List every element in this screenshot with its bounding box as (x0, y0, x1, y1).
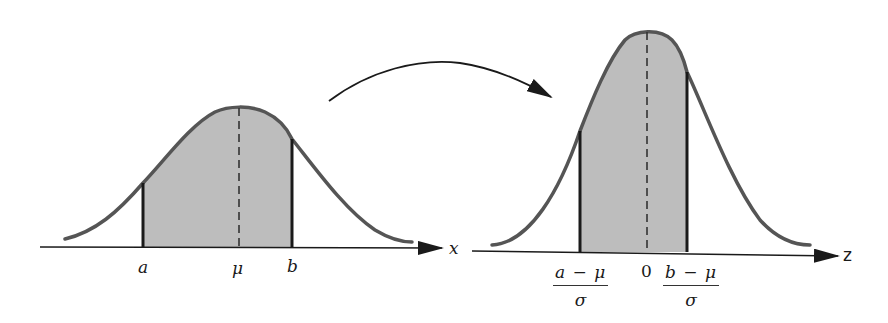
tick-label-mu: μ (232, 260, 243, 277)
right-standard-normal-panel (472, 32, 838, 256)
tick-label-a: a (138, 259, 148, 276)
fraction-denominator: σ (685, 286, 697, 310)
fraction-numerator: b − μ (663, 262, 719, 286)
fraction-numerator: a − μ (553, 262, 608, 286)
fraction-denominator: σ (575, 286, 587, 310)
tick-label-zero: 0 (641, 263, 652, 280)
diagram-canvas (0, 0, 888, 323)
right-shaded-area (580, 32, 687, 252)
tick-label-b-standardized: b − μ σ (663, 262, 719, 310)
tick-label-a-standardized: a − μ σ (553, 262, 608, 310)
tick-label-b: b (287, 258, 298, 275)
z-axis-label: z (843, 247, 852, 264)
x-axis-label: x (449, 240, 459, 257)
left-shaded-area (143, 107, 292, 247)
left-normal-panel (40, 107, 442, 248)
transform-arrow (329, 62, 551, 101)
x-axis (40, 247, 442, 248)
